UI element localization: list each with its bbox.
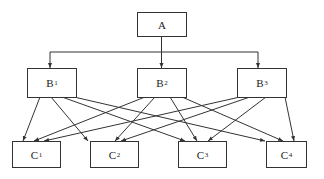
node-b2: B2 [137, 68, 187, 98]
node-c2-label: C [109, 149, 116, 161]
node-a: A [137, 12, 187, 37]
node-c1-subscript: 1 [39, 151, 43, 159]
node-c3-subscript: 3 [205, 151, 209, 159]
edge-b1-c1 [23, 97, 40, 141]
node-b3: B3 [237, 68, 287, 98]
edge-b2-c3 [170, 97, 197, 141]
node-b1: B1 [27, 68, 77, 98]
edge-b1-c2 [51, 97, 88, 141]
node-c2-subscript: 2 [117, 151, 121, 159]
node-c4: C4 [266, 141, 307, 168]
node-b3-label: B [256, 77, 263, 89]
node-c3: C3 [178, 141, 227, 168]
node-c1: C1 [12, 141, 61, 168]
node-b3-subscript: 3 [264, 79, 268, 87]
node-b2-label: B [156, 77, 163, 89]
node-c4-subscript: 4 [289, 151, 293, 159]
node-b2-subscript: 2 [164, 79, 168, 87]
edge-b2-c4 [182, 97, 283, 141]
node-b1-subscript: 1 [54, 79, 58, 87]
node-c2: C2 [90, 141, 139, 168]
node-c4-label: C [281, 149, 288, 161]
node-b1-label: B [46, 77, 53, 89]
edge-b2-c1 [34, 97, 145, 141]
edge-b3-c1 [44, 97, 240, 141]
edge-b1-c3 [62, 97, 185, 141]
edge-b2-c2 [115, 97, 155, 141]
node-c3-label: C [197, 149, 204, 161]
node-c1-label: C [31, 149, 38, 161]
node-a-label: A [158, 19, 166, 31]
edge-b3-c4 [285, 97, 294, 141]
